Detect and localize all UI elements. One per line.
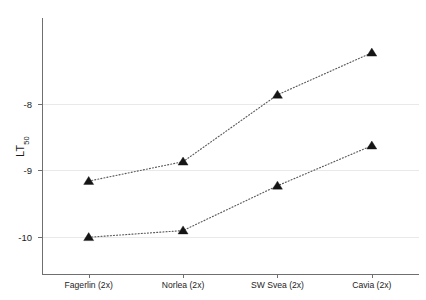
series-line-group	[89, 53, 372, 237]
data-point-marker	[178, 226, 188, 234]
data-point-marker	[367, 48, 377, 56]
series-line-lower	[89, 146, 372, 238]
data-point-marker	[367, 141, 377, 149]
plot-area	[0, 0, 426, 300]
gridline-group	[42, 105, 420, 238]
data-point-marker	[272, 90, 282, 98]
tick-mark-group	[38, 105, 373, 278]
chart-figure: LT50 -8-9-10 Fagerlin (2x)Norlea (2x)SW …	[0, 0, 426, 300]
series-marker-group	[84, 48, 377, 240]
series-line-upper	[89, 53, 372, 181]
data-point-marker	[272, 181, 282, 189]
data-point-marker	[178, 157, 188, 165]
